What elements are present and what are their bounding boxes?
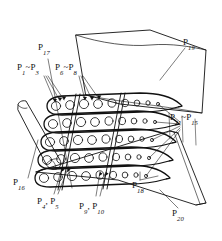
label-p18: P18	[132, 181, 144, 191]
cylindrical-rod	[18, 101, 61, 170]
label-p17: P17	[38, 43, 50, 53]
label-p19: P19	[183, 38, 195, 48]
label-p11-p15: P11~P15	[170, 113, 198, 123]
figure-canvas: P17 P1~P3 P6~P8 P19 P11~P15 P16 P4, P5 P…	[0, 0, 222, 241]
label-p20: P20	[172, 209, 184, 219]
label-p16: P16	[13, 178, 25, 188]
label-p1-p3: P1~P3	[17, 63, 39, 73]
blade-5	[35, 165, 170, 187]
label-p9-p10: P9, P10	[79, 202, 104, 212]
label-p6-p8: P6~P8	[55, 63, 77, 73]
label-p4-p5: P4, P5	[37, 197, 59, 207]
